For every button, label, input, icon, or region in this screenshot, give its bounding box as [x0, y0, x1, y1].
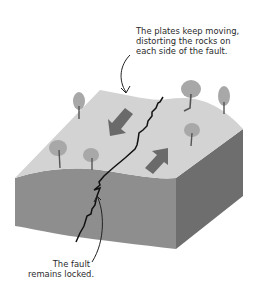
annotation-fault-locked: The fault remains locked. — [28, 259, 90, 279]
annotation-line: distorting the rocks on — [136, 36, 239, 46]
fault-diagram: The plates keep moving, distorting the r… — [0, 0, 259, 290]
leader-line-top — [121, 55, 130, 92]
annotation-line: The plates keep moving, — [136, 26, 239, 36]
annotation-line: remains locked. — [28, 269, 90, 279]
annotation-line: each side of the fault. — [136, 46, 239, 56]
annotation-plates-moving: The plates keep moving, distorting the r… — [136, 26, 239, 57]
block-front-face — [15, 168, 176, 249]
annotation-line: The fault — [28, 259, 90, 269]
leader-arrowhead-top — [121, 86, 130, 93]
